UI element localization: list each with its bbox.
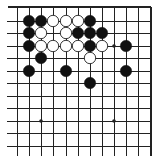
- white-stone[interactable]: [47, 40, 58, 51]
- black-stone[interactable]: [84, 40, 95, 51]
- white-stone[interactable]: [72, 40, 83, 51]
- star-point: [39, 119, 43, 123]
- white-stone[interactable]: [60, 15, 71, 26]
- black-stone[interactable]: [84, 77, 95, 88]
- white-stone[interactable]: [96, 40, 107, 51]
- black-stone[interactable]: [84, 15, 95, 26]
- white-stone[interactable]: [60, 40, 71, 51]
- black-stone[interactable]: [23, 27, 34, 38]
- star-point: [112, 44, 116, 48]
- black-stone[interactable]: [84, 27, 95, 38]
- black-stone[interactable]: [120, 40, 131, 51]
- white-stone[interactable]: [84, 52, 95, 63]
- black-stone[interactable]: [35, 15, 46, 26]
- white-stone[interactable]: [47, 15, 58, 26]
- white-stone[interactable]: [35, 40, 46, 51]
- black-stone[interactable]: [96, 27, 107, 38]
- black-stone[interactable]: [23, 15, 34, 26]
- black-stone[interactable]: [60, 65, 71, 76]
- black-stone[interactable]: [120, 65, 131, 76]
- black-stone[interactable]: [72, 27, 83, 38]
- black-stone[interactable]: [23, 40, 34, 51]
- star-point: [112, 119, 116, 123]
- go-board[interactable]: [0, 0, 158, 157]
- white-stone[interactable]: [60, 27, 71, 38]
- black-stone[interactable]: [23, 65, 34, 76]
- white-stone[interactable]: [35, 27, 46, 38]
- black-stone[interactable]: [35, 52, 46, 63]
- white-stone[interactable]: [72, 15, 83, 26]
